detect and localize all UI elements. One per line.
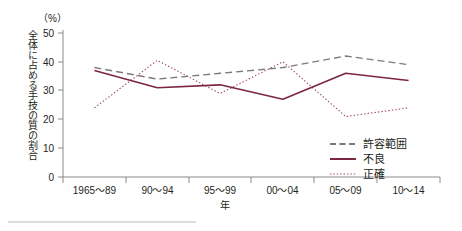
y-axis-title: 全体に占める手技の質の割合 — [22, 30, 36, 160]
y-tick-label-50: 50 — [43, 28, 55, 39]
series-line-accurate — [94, 60, 408, 116]
x-tick-label-1: 90〜94 — [141, 185, 174, 196]
y-axis-ticks — [58, 33, 63, 177]
line-chart: 全体に占める手技の質の割合 （%） 50 40 30 20 10 0 — [0, 0, 462, 231]
x-tick-label-3: 00〜04 — [266, 185, 299, 196]
y-tick-label-0: 0 — [48, 172, 54, 183]
y-tick-label-20: 20 — [43, 114, 55, 125]
x-tick-label-4: 05〜09 — [329, 185, 362, 196]
x-tick-label-5: 10〜14 — [392, 185, 425, 196]
y-axis-unit-label: （%） — [38, 13, 67, 24]
x-axis-tick-labels: 1965〜89 90〜94 95〜99 00〜04 05〜09 10〜14 — [73, 185, 425, 196]
x-axis-title: 年 — [220, 199, 230, 211]
x-tick-label-2: 95〜99 — [204, 185, 237, 196]
chart-canvas: （%） 50 40 30 20 10 0 — [0, 0, 462, 231]
legend-label-accurate: 正確 — [363, 167, 385, 180]
y-axis-tick-labels: 50 40 30 20 10 0 — [43, 28, 55, 183]
series-line-poor — [94, 70, 408, 99]
legend-label-poor: 不良 — [363, 152, 385, 165]
y-tick-label-10: 10 — [43, 143, 55, 154]
y-tick-label-30: 30 — [43, 85, 55, 96]
chart-legend: 許容範囲 不良 正確 — [330, 137, 407, 180]
y-tick-label-40: 40 — [43, 57, 55, 68]
legend-label-tolerance: 許容範囲 — [363, 137, 407, 150]
x-tick-label-0: 1965〜89 — [73, 185, 117, 196]
